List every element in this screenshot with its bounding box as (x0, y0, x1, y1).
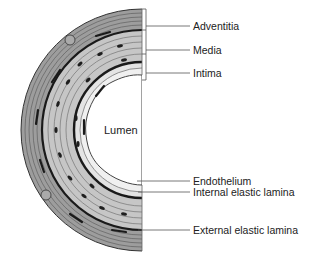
label-adventitia: Adventitia (193, 20, 239, 32)
label-media: Media (193, 44, 222, 56)
artery-cross-section-illustration (0, 0, 326, 260)
artery-diagram: Lumen Adventitia Media Intima Endotheliu… (0, 0, 326, 260)
layer-brackets (142, 9, 146, 80)
leader-lines (137, 26, 190, 230)
label-internal-elastic-lamina: Internal elastic lamina (193, 186, 295, 198)
label-external-elastic-lamina: External elastic lamina (193, 224, 298, 236)
lumen-label: Lumen (104, 124, 138, 136)
label-intima: Intima (193, 67, 222, 79)
